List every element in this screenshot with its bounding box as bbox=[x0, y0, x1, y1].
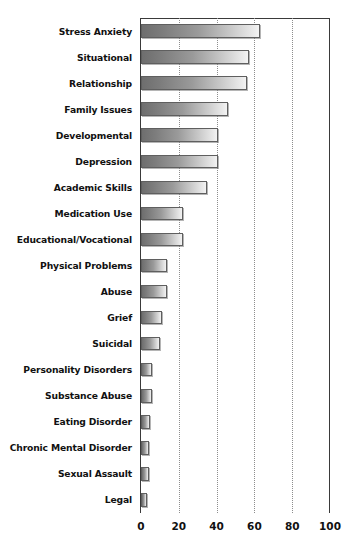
bar-row: Eating Disorder bbox=[0, 409, 363, 435]
x-tick-label-80: 80 bbox=[285, 520, 300, 532]
category-label: Educational/Vocational bbox=[0, 234, 136, 245]
bar-row: Educational/Vocational bbox=[0, 226, 363, 252]
bar-track bbox=[141, 200, 363, 226]
bar-row: Depression bbox=[0, 148, 363, 174]
x-tick-label-60: 60 bbox=[247, 520, 262, 532]
bar-track bbox=[141, 122, 363, 148]
category-label: Substance Abuse bbox=[0, 390, 136, 401]
bar-row: Relationship bbox=[0, 70, 363, 96]
category-label: Eating Disorder bbox=[0, 416, 136, 427]
bar bbox=[141, 76, 247, 90]
bar-track bbox=[141, 331, 363, 357]
x-tick-label-40: 40 bbox=[209, 520, 224, 532]
x-tick-label-0: 0 bbox=[137, 520, 144, 532]
bar-track bbox=[141, 435, 363, 461]
bar bbox=[141, 207, 183, 221]
bar-rows: Stress AnxietySituationalRelationshipFam… bbox=[0, 18, 363, 513]
bar-track bbox=[141, 487, 363, 513]
bar-row: Suicidal bbox=[0, 331, 363, 357]
category-label: Chronic Mental Disorder bbox=[0, 442, 136, 453]
bar bbox=[141, 337, 160, 351]
category-label: Grief bbox=[0, 312, 136, 323]
x-tick-label-20: 20 bbox=[171, 520, 186, 532]
bar-track bbox=[141, 357, 363, 383]
bar bbox=[141, 259, 167, 273]
category-label: Personality Disorders bbox=[0, 364, 136, 375]
category-label: Academic Skills bbox=[0, 182, 136, 193]
bar-row: Stress Anxiety bbox=[0, 18, 363, 44]
category-label: Medication Use bbox=[0, 208, 136, 219]
bar bbox=[141, 181, 207, 195]
category-label: Developmental bbox=[0, 130, 136, 141]
bar-row: Sexual Assault bbox=[0, 461, 363, 487]
category-label: Situational bbox=[0, 52, 136, 63]
bar-row: Situational bbox=[0, 44, 363, 70]
bar-row: Grief bbox=[0, 305, 363, 331]
category-label: Suicidal bbox=[0, 338, 136, 349]
bar-row: Developmental bbox=[0, 122, 363, 148]
bar-row: Personality Disorders bbox=[0, 357, 363, 383]
bar bbox=[141, 363, 152, 377]
category-label: Relationship bbox=[0, 78, 136, 89]
bar-row: Medication Use bbox=[0, 200, 363, 226]
bar-track bbox=[141, 461, 363, 487]
category-label: Physical Problems bbox=[0, 260, 136, 271]
bar-track bbox=[141, 226, 363, 252]
bar-track bbox=[141, 174, 363, 200]
bar-row: Physical Problems bbox=[0, 252, 363, 278]
bar-track bbox=[141, 252, 363, 278]
category-label: Stress Anxiety bbox=[0, 26, 136, 37]
bar-track bbox=[141, 409, 363, 435]
bar-track bbox=[141, 70, 363, 96]
category-label: Family Issues bbox=[0, 104, 136, 115]
bar bbox=[141, 233, 183, 247]
bar-track bbox=[141, 96, 363, 122]
bar bbox=[141, 155, 218, 169]
category-label: Depression bbox=[0, 156, 136, 167]
bar-row: Abuse bbox=[0, 279, 363, 305]
bar bbox=[141, 311, 162, 325]
category-label: Legal bbox=[0, 494, 136, 505]
bar bbox=[141, 285, 167, 299]
bar bbox=[141, 389, 152, 403]
x-tick-label-100: 100 bbox=[319, 520, 341, 532]
bar-row: Chronic Mental Disorder bbox=[0, 435, 363, 461]
bar-track bbox=[141, 148, 363, 174]
bar bbox=[141, 102, 228, 116]
bar bbox=[141, 441, 149, 455]
bar bbox=[141, 415, 150, 429]
x-axis-tick-labels: 020406080100 bbox=[0, 520, 363, 542]
bar-track bbox=[141, 279, 363, 305]
bar-row: Academic Skills bbox=[0, 174, 363, 200]
bar bbox=[141, 128, 218, 142]
bar-chart: Stress AnxietySituationalRelationshipFam… bbox=[0, 0, 363, 552]
bar-row: Legal bbox=[0, 487, 363, 513]
category-label: Abuse bbox=[0, 286, 136, 297]
bar-track bbox=[141, 305, 363, 331]
bar-track bbox=[141, 383, 363, 409]
bar-row: Family Issues bbox=[0, 96, 363, 122]
bar-track bbox=[141, 18, 363, 44]
bar-track bbox=[141, 44, 363, 70]
bar bbox=[141, 24, 260, 38]
bar bbox=[141, 493, 147, 507]
bar bbox=[141, 50, 249, 64]
bar-row: Substance Abuse bbox=[0, 383, 363, 409]
bar bbox=[141, 467, 149, 481]
category-label: Sexual Assault bbox=[0, 468, 136, 479]
